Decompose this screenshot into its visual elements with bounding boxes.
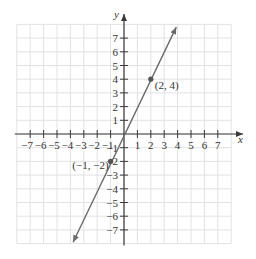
y-tick-label: 1 [113,114,119,126]
y-tick-label: 2 [113,101,119,113]
y-tick-label: 3 [113,87,119,99]
y-tick-label: −4 [106,183,118,195]
x-tick-label: 2 [148,139,154,151]
x-tick-label: 1 [135,139,141,151]
x-tick-label: −3 [75,139,87,151]
y-tick-label: 5 [113,60,119,72]
x-axis-label: x [237,133,243,145]
y-tick-label: −6 [106,210,118,222]
y-tick-label: −5 [106,197,118,209]
x-tick-label: 7 [215,139,221,151]
plotted-points: (2, 4)(−1, −2) [72,77,179,173]
x-tick-label: 3 [161,139,167,151]
y-tick-label: −7 [106,224,118,236]
x-tick-label: −6 [35,139,47,151]
x-tick-label: −4 [62,139,74,151]
line-y-equals-2x [73,27,176,242]
x-tick-label: −2 [88,139,100,151]
x-tick-label: 5 [188,139,194,151]
y-axis-label: y [113,8,119,20]
x-tick-label: 4 [175,139,181,151]
data-point [108,159,113,164]
coordinate-plane-chart: −7−6−5−4−3−2−112345677654321−1−2−3−4−5−6… [0,0,256,259]
x-tick-label: −5 [48,139,60,151]
point-label: (−1, −2) [72,159,109,172]
line-series [73,27,176,242]
x-tick-label: −7 [21,139,33,151]
y-tick-label: 7 [113,32,119,44]
y-tick-label: 6 [113,46,119,58]
point-label: (2, 4) [155,79,179,92]
data-point [148,77,153,82]
x-tick-label: 6 [202,139,208,151]
axes [15,14,243,246]
y-tick-label: 4 [113,73,119,85]
